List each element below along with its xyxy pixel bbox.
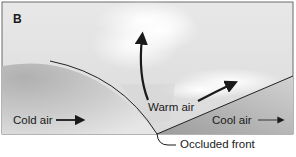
cool-air-label: Cool air [212, 115, 252, 127]
occluded-front-label: Occluded front [180, 139, 255, 151]
diagram-graphic [0, 0, 296, 157]
occluded-front-leader [157, 134, 176, 145]
cold-air-label: Cold air [13, 115, 53, 127]
occluded-front-diagram: B Cold air Warm air Cool air Occluded fr… [0, 0, 296, 157]
warm-air-label: Warm air [148, 102, 194, 114]
panel-label: B [13, 12, 22, 26]
